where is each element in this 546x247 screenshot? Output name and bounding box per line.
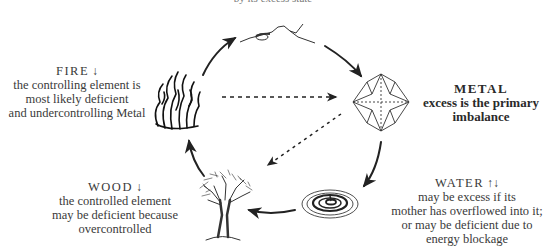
wood-label: WOOD↓ the controlled element may be defi… [50,180,180,236]
metal-line-2: imbalance [418,110,544,124]
water-name: WATER [435,176,484,190]
fire-label: FIRE↓ the controlling element is most li… [2,64,152,120]
metal-name: METAL [418,82,544,96]
water-label: WATER↑↓ may be excess if its mother has … [388,176,546,246]
arrow-earth-to-metal [325,46,361,76]
cycle-arrows [189,38,381,213]
metal-line-1: excess is the primary [418,96,544,110]
fire-line-2: most likely deficient [2,92,152,106]
down-arrow-icon: ↓ [92,64,98,78]
water-line-1: may be excess if its [388,190,546,204]
water-line-2: mother has overflowed into it; [388,204,546,218]
water-line-3: or may be deficient due to [388,218,546,232]
arrow-water-to-wood [249,210,295,213]
fire-line-3: and undercontrolling Metal [2,106,152,120]
arrow-fire-to-earth [203,38,235,75]
metal-crystal-icon [353,74,409,131]
wood-line-3: overcontrolled [50,222,180,236]
wood-title: WOOD↓ [50,180,180,194]
fire-icon [155,72,200,129]
earth-mountain-icon [240,24,315,43]
fire-name: FIRE [56,64,89,78]
water-line-4: energy blockage [388,232,546,246]
fire-title: FIRE↓ [2,64,152,78]
wood-name: WOOD [88,180,133,194]
wood-line-1: the controlled element [50,194,180,208]
down-arrow-icon: ↓ [136,180,142,194]
arrow-metal-controls-wood [268,114,341,165]
arrow-metal-to-water [364,142,381,186]
fire-line-1: the controlling element is [2,78,152,92]
up-down-arrows-icon: ↑↓ [487,176,499,190]
water-ripple-icon [302,190,358,218]
wood-tree-icon [200,170,252,240]
arrow-wood-to-fire [189,141,204,176]
metal-label: METAL excess is the primary imbalance [418,82,544,124]
wood-line-2: may be deficient because [50,208,180,222]
water-title: WATER↑↓ [388,176,546,190]
